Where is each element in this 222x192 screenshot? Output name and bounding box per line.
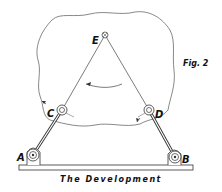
rotation-arrow	[86, 84, 122, 87]
label-c: C	[47, 109, 54, 119]
joint-e	[102, 32, 108, 38]
figure-caption: The Development	[0, 176, 222, 184]
figure-label: Fig. 2	[183, 60, 208, 68]
link-c-e	[62, 35, 105, 110]
label-d: D	[155, 110, 163, 120]
pivot-a	[27, 148, 40, 165]
label-a: A	[17, 153, 25, 163]
ground-bar	[19, 165, 193, 170]
pivot-b	[168, 150, 181, 165]
link-d-e	[105, 35, 149, 110]
label-e: E	[92, 36, 99, 46]
label-b: B	[182, 155, 190, 165]
